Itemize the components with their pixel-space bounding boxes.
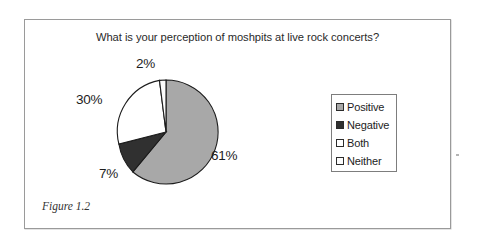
legend-swatch-negative-icon — [336, 121, 344, 129]
scan-artifact-speck — [456, 154, 459, 156]
pie-label-neither: 2% — [136, 56, 155, 71]
pie-chart — [108, 74, 224, 190]
chart-legend: Positive Negative Both Neither — [331, 94, 397, 172]
pie-label-negative: 7% — [99, 166, 118, 181]
pie-label-positive: 61% — [211, 148, 237, 163]
legend-swatch-both-icon — [336, 139, 344, 147]
legend-item-negative: Negative — [336, 116, 396, 134]
legend-label-neither: Neither — [347, 156, 381, 167]
legend-item-neither: Neither — [336, 152, 396, 170]
figure-caption: Figure 1.2 — [42, 200, 90, 212]
legend-label-both: Both — [347, 138, 369, 149]
legend-label-negative: Negative — [347, 120, 389, 131]
legend-item-both: Both — [336, 134, 396, 152]
pie-label-both: 30% — [76, 92, 102, 107]
figure-page: What is your perception of moshpits at l… — [0, 0, 479, 247]
legend-item-positive: Positive — [336, 98, 396, 116]
legend-label-positive: Positive — [347, 102, 384, 113]
chart-title: What is your perception of moshpits at l… — [24, 31, 451, 43]
legend-swatch-neither-icon — [336, 157, 344, 165]
legend-swatch-positive-icon — [336, 103, 344, 111]
pie-chart-svg — [108, 74, 224, 190]
